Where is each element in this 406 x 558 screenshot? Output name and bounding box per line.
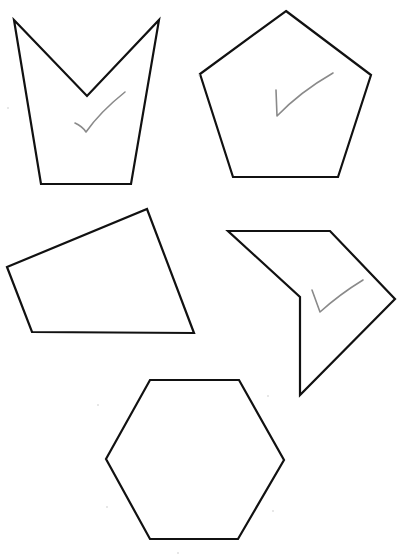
quadrilateral-outline: [7, 209, 194, 333]
paper-specks: [7, 74, 274, 554]
shapes-worksheet: [0, 0, 406, 558]
concave-pentagon-outline: [14, 20, 159, 184]
regular-hexagon-outline: [106, 380, 284, 539]
shape-4-concave-pentagon: [228, 231, 395, 395]
shape-5-regular-hexagon: [106, 380, 284, 539]
regular-pentagon-outline: [200, 11, 371, 177]
checkmark-icon: [75, 92, 125, 132]
shape-1-concave-pentagon: [14, 20, 159, 184]
checkmark-icon: [276, 73, 333, 116]
concave-pentagon-outline: [228, 231, 395, 395]
shape-2-regular-pentagon: [200, 11, 371, 177]
shape-3-quadrilateral: [7, 209, 194, 333]
checkmark-icon: [312, 280, 363, 312]
